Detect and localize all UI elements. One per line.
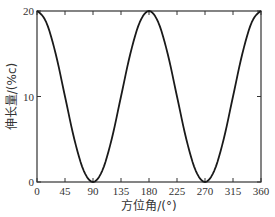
y-tick-label: 10 bbox=[23, 91, 35, 103]
x-tick-label: 0 bbox=[34, 185, 40, 197]
y-axis: 01020 bbox=[23, 5, 261, 188]
x-tick-label: 180 bbox=[141, 185, 158, 197]
plot-area bbox=[37, 11, 261, 182]
x-tick-label: 135 bbox=[113, 185, 130, 197]
x-tick-label: 360 bbox=[253, 185, 270, 197]
y-tick-label: 20 bbox=[23, 5, 35, 17]
chart: 04590135180225270315360 01020 方位角/(°) 伸长… bbox=[0, 0, 275, 217]
x-axis-title: 方位角/(°) bbox=[121, 198, 176, 213]
x-tick-label: 225 bbox=[169, 185, 186, 197]
y-axis-title: 伸长量/(%c) bbox=[5, 63, 19, 130]
x-tick-label: 270 bbox=[197, 185, 214, 197]
data-line bbox=[37, 11, 261, 182]
x-axis: 04590135180225270315360 bbox=[34, 11, 270, 197]
x-tick-label: 90 bbox=[88, 185, 100, 197]
x-tick-label: 45 bbox=[60, 185, 72, 197]
plot-border bbox=[37, 11, 261, 182]
x-tick-label: 315 bbox=[225, 185, 242, 197]
y-tick-label: 0 bbox=[29, 176, 35, 188]
